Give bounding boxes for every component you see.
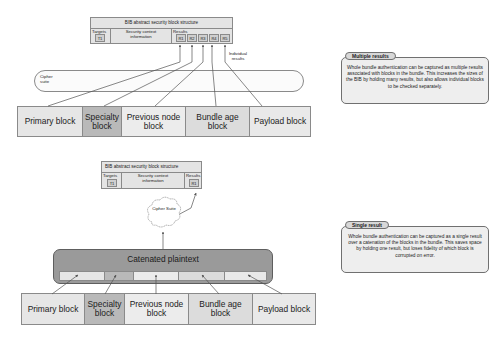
targets-label: Targets	[102, 172, 121, 179]
top-bundle-blocks: Primary block Specialty block Previous n…	[17, 106, 311, 137]
results-cell: Results R1 R2 R3 R4 R5	[172, 28, 232, 43]
cat-segment-previous-node	[134, 272, 179, 280]
result-chip: R3	[198, 34, 208, 42]
cat-segment-primary	[60, 272, 105, 280]
targets-cell: Targets T1	[102, 172, 122, 188]
result-chip: R4	[209, 34, 219, 42]
payload-block: Payload block	[253, 294, 315, 324]
single-result-callout: Whole bundle authentication can be captu…	[341, 226, 489, 273]
results-label: Results	[185, 172, 201, 179]
target-chip: T1	[95, 34, 105, 42]
security-context-cell: Security context information	[111, 28, 172, 43]
top-bib-structure: BIB abstract security block structure Ta…	[90, 17, 233, 44]
single-result-title: Single result	[345, 221, 389, 229]
bundle-age-block: Bundle age block	[186, 107, 250, 136]
specialty-block: Specialty block	[83, 107, 122, 136]
result-chip: R2	[187, 34, 197, 42]
result-chip: R1	[176, 34, 186, 42]
security-context-label: Security context information	[111, 28, 171, 39]
payload-block: Payload block	[250, 107, 310, 136]
single-result-text: Whole bundle authentication can be captu…	[346, 234, 484, 259]
bundle-age-block: Bundle age block	[189, 294, 253, 324]
security-context-label: Security context information	[122, 172, 184, 183]
result-chip: R1	[189, 179, 199, 187]
cat-segment-payload	[225, 272, 266, 280]
cat-segment-bundle-age	[179, 272, 225, 280]
primary-block: Primary block	[22, 294, 85, 324]
previous-node-block: Previous node block	[125, 294, 189, 324]
specialty-block: Specialty block	[85, 294, 125, 324]
multiple-results-text: Whole bundle authentication can be captu…	[346, 65, 484, 90]
result-chip: R5	[220, 34, 230, 42]
primary-block: Primary block	[18, 107, 83, 136]
multiple-results-callout: Whole bundle authentication can be captu…	[341, 57, 489, 104]
individual-results-note: Individual results	[224, 51, 252, 61]
security-context-cell: Security context information	[122, 172, 185, 188]
cipher-suite-pipe	[34, 70, 304, 92]
catenated-strip	[59, 271, 267, 281]
target-chip: T1	[107, 179, 117, 187]
results-cell: Results R1	[185, 172, 201, 188]
cipher-cloud-icon	[148, 197, 181, 227]
targets-cell: Targets T1	[91, 28, 111, 43]
bottom-bib-structure: BIB abstract security block structure Ta…	[101, 161, 202, 189]
bottom-bundle-blocks: Primary block Specialty block Previous n…	[21, 293, 316, 325]
previous-node-block: Previous node block	[122, 107, 186, 136]
multiple-results-title: Multiple results	[345, 52, 396, 60]
catenated-plaintext: Catenated plaintext	[53, 249, 273, 284]
cat-segment-specialty	[105, 272, 134, 280]
catenated-plaintext-label: Catenated plaintext	[54, 254, 272, 264]
cipher-suite-label: Cipher Suite	[152, 206, 176, 211]
cipher-suite-label: Cipher suite	[40, 74, 60, 84]
